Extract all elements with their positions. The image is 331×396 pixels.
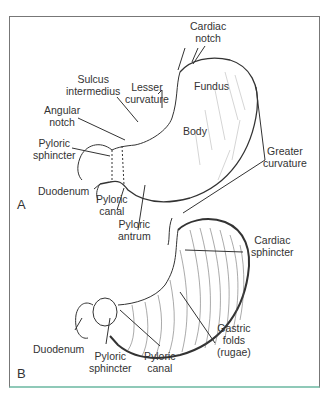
label-line: Pyloric (96, 193, 128, 205)
label-line: Sulcus (66, 73, 120, 85)
label-pyloric-canal-a: Pyloric canal (96, 193, 128, 217)
label-line: intermedius (66, 85, 120, 97)
label-line: Cardiac (190, 20, 226, 32)
label-line: Greater (263, 145, 307, 157)
label-pyloric-sphincter-b: Pyloric sphincter (89, 350, 132, 374)
panel-letter-a: A (17, 197, 26, 212)
label-line: (rugae) (217, 346, 251, 358)
label-line: antrum (118, 230, 151, 242)
label-line: Pyloric (89, 350, 132, 362)
label-pyloric-canal-b: Pyloric canal (144, 350, 176, 374)
label-line: Pyloric (144, 350, 176, 362)
label-line: folds (217, 334, 251, 346)
label-line: Duodenum (38, 185, 89, 197)
label-gastric-folds: Gastric folds (rugae) (217, 322, 251, 358)
label-fundus: Duodenum Fundus (194, 80, 229, 92)
label-line: Pyloric (118, 218, 151, 230)
label-line: Gastric (217, 322, 251, 334)
label-line: canal (96, 205, 128, 217)
label-body: Body (183, 125, 207, 137)
label-line: notch (44, 116, 80, 128)
label-line: sphincter (33, 149, 76, 161)
label-line: sphincter (251, 246, 294, 258)
label-line: Body (183, 125, 207, 137)
label-line: Lesser (125, 81, 169, 93)
label-line: sphincter (89, 362, 132, 374)
label-sulcus-intermedius: Sulcus intermedius (66, 73, 120, 97)
label-line: Duodenum (33, 343, 84, 355)
label-duodenum-b: Duodenum (33, 343, 84, 355)
label-line: canal (144, 362, 176, 374)
label-line: Fundus (194, 80, 229, 92)
label-angular-notch: Angular notch (44, 104, 80, 128)
label-greater-curvature: Greater curvature (263, 145, 307, 169)
label-line: curvature (263, 157, 307, 169)
label-duodenum-a: Duodenum (38, 185, 89, 197)
label-line: curvature (125, 93, 169, 105)
label-cardiac-notch: Cardiac notch (190, 20, 226, 44)
label-lesser-curvature: Lesser curvature (125, 81, 169, 105)
label-pyloric-sphincter-a: Pyloric sphincter (33, 137, 76, 161)
label-line: Angular (44, 104, 80, 116)
label-line: Pyloric (33, 137, 76, 149)
stomach-illustration (0, 0, 331, 396)
label-line: notch (190, 32, 226, 44)
panel-letter-b: B (17, 366, 26, 381)
label-cardiac-sphincter: Cardiac sphincter (251, 234, 294, 258)
label-pyloric-antrum: Pyloric antrum (118, 218, 151, 242)
label-line: Cardiac (251, 234, 294, 246)
